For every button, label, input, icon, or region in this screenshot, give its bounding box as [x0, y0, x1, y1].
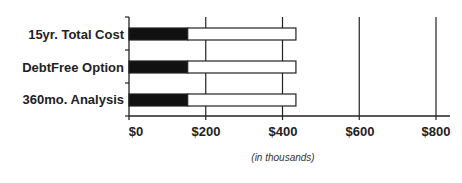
bar-segment: [188, 94, 296, 106]
x-tick-label: $400: [269, 124, 298, 139]
bar-segment: [129, 94, 188, 106]
bar-segment: [188, 28, 296, 40]
bar-segment: [129, 61, 188, 73]
x-tick-label: $800: [422, 124, 451, 139]
x-tick-label: $0: [129, 124, 143, 139]
x-axis-unit-note: (in thousands): [251, 152, 314, 163]
x-tick-label: $600: [346, 124, 375, 139]
x-tick-label: $200: [192, 124, 221, 139]
stacked-bar-chart: 15yr. Total Cost DebtFree Option 360mo. …: [0, 0, 462, 183]
bar-segment: [129, 28, 188, 40]
category-label: 360mo. Analysis: [23, 92, 124, 107]
category-label: 15yr. Total Cost: [28, 27, 124, 42]
bar-segment: [188, 61, 296, 73]
category-label: DebtFree Option: [22, 60, 124, 75]
